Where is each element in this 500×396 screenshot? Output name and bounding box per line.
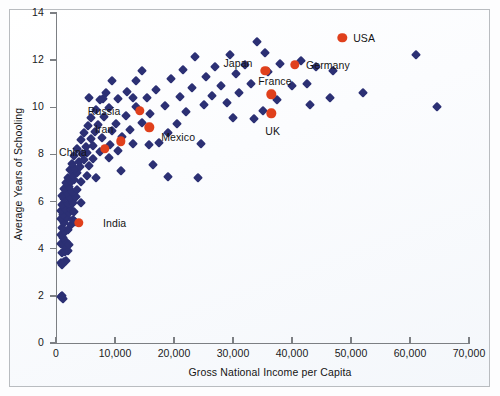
- x-tick-mark: [232, 337, 233, 343]
- point-label-iran: Iran: [95, 123, 114, 135]
- x-axis-line: [55, 343, 470, 344]
- point-label-india: India: [103, 217, 126, 229]
- y-tick-label: 14: [4, 6, 44, 18]
- y-tick-mark: [50, 248, 56, 249]
- point-label-russia: Russia: [88, 105, 121, 117]
- x-tick-label: 20,000: [144, 347, 204, 359]
- y-tick-label: 8: [4, 147, 44, 159]
- point-label-germany: Germany: [306, 59, 350, 71]
- point-label-uk: UK: [265, 125, 280, 137]
- x-tick-label: 10,000: [85, 347, 145, 359]
- point-label-france: France: [258, 75, 291, 87]
- point-label-mexico: Mexico: [161, 131, 195, 143]
- x-tick-mark: [409, 337, 410, 343]
- x-tick-label: 60,000: [380, 347, 440, 359]
- y-tick-label: 12: [4, 53, 44, 65]
- y-tick-label: 4: [4, 242, 44, 254]
- x-tick-mark: [468, 337, 469, 343]
- y-axis-title: Average Years of Schooling: [12, 44, 24, 304]
- x-tick-mark: [114, 337, 115, 343]
- y-tick-label: 10: [4, 100, 44, 112]
- x-axis-title: Gross National Income per Capita: [120, 366, 420, 378]
- x-tick-mark: [291, 337, 292, 343]
- x-tick-label: 70,000: [439, 347, 499, 359]
- y-tick-mark: [50, 12, 56, 13]
- y-tick-mark: [50, 59, 56, 60]
- y-tick-label: 2: [4, 289, 44, 301]
- x-tick-label: 40,000: [262, 347, 322, 359]
- x-tick-mark: [350, 337, 351, 343]
- y-tick-mark: [50, 107, 56, 108]
- x-tick-label: 50,000: [321, 347, 381, 359]
- x-tick-mark: [55, 337, 56, 343]
- point-label-japan: Japan: [223, 57, 252, 69]
- point-label-usa: USA: [353, 32, 375, 44]
- x-tick-label: 0: [26, 347, 86, 359]
- point-label-china: China: [59, 146, 87, 158]
- x-tick-mark: [173, 337, 174, 343]
- x-tick-label: 30,000: [203, 347, 263, 359]
- y-tick-label: 6: [4, 195, 44, 207]
- y-tick-mark: [50, 154, 56, 155]
- y-tick-mark: [50, 201, 56, 202]
- figure-container: 02468101214 010,00020,00030,00040,00050,…: [0, 0, 500, 396]
